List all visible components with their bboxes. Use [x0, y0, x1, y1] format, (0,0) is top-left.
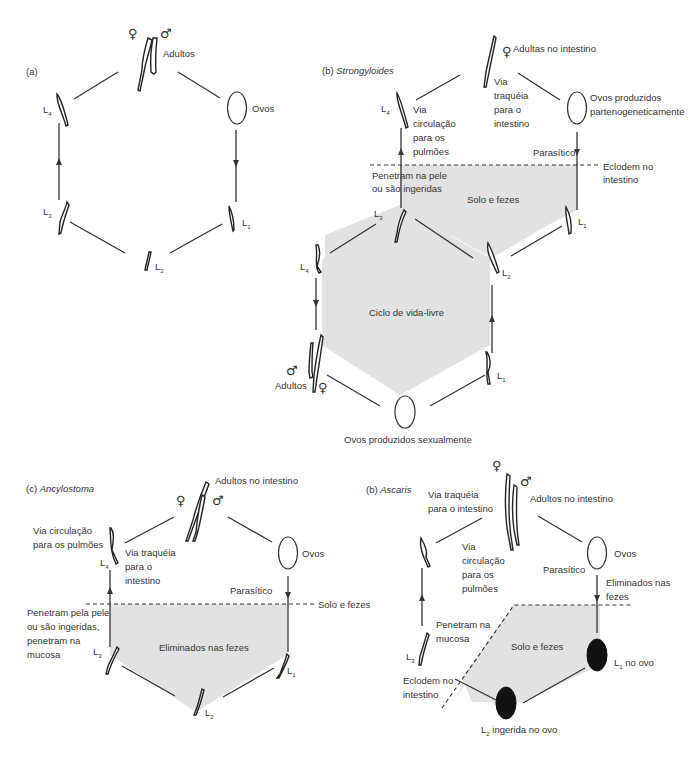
soil-shading — [110, 604, 287, 712]
l2-label: L2 — [502, 267, 511, 280]
female-symbol: ♀ — [492, 458, 502, 473]
arrow-down-icon — [233, 160, 239, 167]
panel-b-strongyloides: (b) Strongyloides ♀ Adultas no intestino… — [275, 36, 685, 445]
arrow-up-icon — [419, 594, 425, 601]
l3-label: L3 — [43, 206, 52, 219]
parasitico-label: Parasítico — [543, 564, 585, 575]
female-symbol: ♀ — [176, 493, 186, 508]
egg-icon — [568, 92, 587, 124]
adults-female-label: Adultas no intestino — [513, 43, 596, 54]
l2-label: L2 — [155, 261, 164, 274]
female-symbol: ♀ — [502, 44, 512, 59]
eggs-label: Ovos — [252, 103, 274, 114]
female-symbol: ♀ — [318, 380, 328, 395]
panel-a: (a) ♀ ♂ Adultos Ovos L4 L3 L1 L2 — [26, 26, 274, 274]
adults-label: Adultos no intestino — [530, 493, 613, 504]
arrow-up-icon — [107, 587, 113, 594]
eggs-label: Ovos — [302, 548, 324, 559]
l4-free-label: L4 — [300, 261, 309, 274]
arrow-up-icon — [56, 158, 62, 165]
adult-worm-male-icon — [151, 38, 157, 74]
eggs-sexual-label: Ovos produzidos sexualmente — [344, 434, 472, 445]
nematode-life-cycles-diagram: (a) ♀ ♂ Adultos Ovos L4 L3 L1 L2 (b) S — [0, 0, 695, 758]
male-symbol: ♂ — [286, 363, 298, 378]
larva-l1-free-icon — [486, 352, 490, 384]
parasitico-label: Parasítico — [533, 147, 575, 158]
larva-l3-icon — [419, 633, 429, 665]
l2-label: L2 — [205, 707, 214, 720]
egg-icon — [395, 396, 415, 428]
adult-male-worm-icon — [513, 485, 520, 545]
l1-egg-label: L1 no ovo — [614, 657, 654, 670]
via-circulacao-label: Via circulação para os pulmões — [33, 525, 103, 550]
arrow-down-icon — [594, 595, 600, 602]
male-symbol: ♂ — [160, 26, 172, 41]
eliminados-label: Eliminados nas fezes — [159, 642, 249, 653]
larva-l4-free-icon — [316, 245, 321, 273]
l1-label: L1 — [287, 665, 296, 678]
eclodem-label: Eclodem no intestino — [403, 675, 456, 700]
arrow-down-icon — [285, 592, 291, 599]
l1-label: L1 — [242, 217, 251, 230]
panel-b-label: (b) Strongyloides — [322, 65, 394, 76]
larva-l4-icon — [397, 93, 408, 128]
l4-label: L4 — [381, 103, 390, 116]
via-traqueia-label: Via traquéia para o intestino — [494, 76, 531, 129]
arrow-down-icon — [313, 300, 319, 307]
egg-icon — [279, 537, 298, 569]
panel-a-label: (a) — [26, 66, 38, 77]
l3-label: L3 — [93, 646, 102, 659]
panel-c-ancylostoma: (c) Ancylostoma ♀ ♂ Adultos no intestino… — [26, 475, 371, 720]
via-circulacao-label: Via circulação para os pulmões — [413, 104, 458, 157]
free-cycle-label: Ciclo de vida-livre — [369, 307, 444, 318]
larva-l1-icon — [229, 206, 234, 231]
l4-label: L4 — [43, 104, 52, 117]
solo-fezes-label: Solo e fezes — [511, 641, 564, 652]
larva-l4-icon — [57, 94, 68, 126]
egg-with-l2-icon — [496, 687, 516, 719]
egg-icon — [228, 92, 247, 124]
via-traqueia-label: Via traquéia para o intestino — [428, 489, 493, 514]
male-symbol: ♂ — [520, 474, 532, 489]
larva-icon — [421, 538, 430, 567]
free-adults-label: Adultos — [275, 380, 307, 391]
l3-label: L3 — [406, 651, 415, 664]
solo-fezes-label: Solo e fezes — [318, 599, 371, 610]
eliminados-label: Eliminados nas fezes — [606, 577, 673, 602]
parasitico-label: Parasítico — [230, 585, 272, 596]
egg-with-l1-icon — [587, 639, 607, 671]
larva-l3-icon — [59, 202, 69, 234]
egg-icon — [588, 537, 607, 569]
eclodem-label: Eclodem no intestino — [603, 161, 656, 185]
adults-label: Adultos no intestino — [215, 475, 298, 486]
free-adult-male-icon — [309, 343, 313, 378]
panel-d-ascaris: (b) Ascaris ♀ ♂ Adultos no intestino Via… — [366, 458, 673, 737]
l2-egg-label: L2 ingerida no ovo — [481, 724, 557, 737]
male-symbol: ♂ — [212, 493, 224, 508]
l1-label: L1 — [578, 216, 587, 229]
adult-worm-female-icon — [138, 38, 152, 91]
female-symbol: ♀ — [128, 26, 138, 41]
l4-label: L4 — [100, 557, 109, 570]
larva-l4-icon — [110, 528, 118, 564]
l1-free-label: L1 — [497, 370, 506, 383]
panel-d-label: (b) Ascaris — [366, 484, 412, 495]
via-traqueia-label: Via traquéia para o intestino — [125, 547, 178, 586]
larva-l2-icon — [145, 252, 151, 270]
panel-c-label: (c) Ancylostoma — [26, 483, 94, 494]
arrow-up-icon — [398, 148, 404, 155]
via-circulacao-label: Via circulação para os pulmões — [462, 541, 507, 594]
eggs-label: Ovos — [614, 548, 636, 559]
solo-fezes-label: Solo e fezes — [467, 194, 520, 205]
adults-label: Adultos — [163, 48, 195, 59]
penetram-label: Penetram na mucosa — [436, 619, 493, 644]
eggs-parth-label: Ovos produzidos partenogeneticamente — [590, 92, 685, 117]
